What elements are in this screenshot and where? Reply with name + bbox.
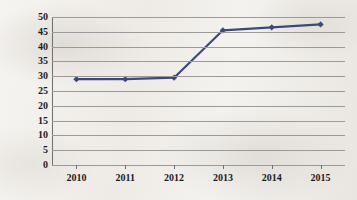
y-axis-tick-label: 0	[26, 160, 48, 170]
x-axis-tick-label: 2014	[250, 172, 294, 183]
x-axis-tickmark	[223, 165, 224, 169]
x-axis-tickmark	[272, 165, 273, 169]
y-axis-tick-label: 50	[26, 12, 48, 22]
y-axis-tick-label: 25	[26, 86, 48, 96]
gridline	[52, 61, 345, 62]
gridline	[52, 91, 345, 92]
gridline	[52, 150, 345, 151]
gridline	[52, 17, 345, 18]
data-point-marker	[317, 21, 323, 27]
y-axis-tick-label: 40	[26, 42, 48, 52]
line-chart: 个体经营数量(个) 05101520253035404550 201020112…	[0, 0, 357, 200]
x-axis-tickmark	[321, 165, 322, 169]
x-axis-tick-label: 2010	[54, 172, 98, 183]
y-axis-tick-label: 20	[26, 101, 48, 111]
y-axis-tick-label: 15	[26, 116, 48, 126]
x-axis-tick-label: 2011	[103, 172, 147, 183]
x-axis-tick-label: 2012	[152, 172, 196, 183]
y-axis-tick-labels: 05101520253035404550	[24, 0, 48, 200]
data-point-marker	[269, 24, 275, 30]
gridline	[52, 76, 345, 77]
gridline	[52, 47, 345, 48]
gridline	[52, 121, 345, 122]
gridline	[52, 106, 345, 107]
y-axis-tick-label: 35	[26, 56, 48, 66]
x-axis-tick-label: 2015	[299, 172, 343, 183]
y-axis-tick-label: 5	[26, 145, 48, 155]
y-axis-tick-label: 45	[26, 27, 48, 37]
gridline	[52, 165, 345, 166]
gridline	[52, 32, 345, 33]
x-axis-tickmark	[174, 165, 175, 169]
y-axis-tick-label: 30	[26, 71, 48, 81]
x-axis-tick-label: 2013	[201, 172, 245, 183]
plot-area	[52, 17, 345, 165]
y-axis-tick-label: 10	[26, 130, 48, 140]
gridline	[52, 135, 345, 136]
x-axis-tickmark	[125, 165, 126, 169]
x-axis-tickmark	[76, 165, 77, 169]
